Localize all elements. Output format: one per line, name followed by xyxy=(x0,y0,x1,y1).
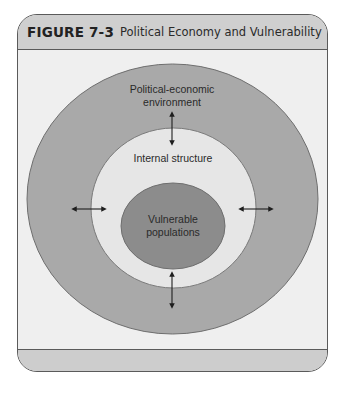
middle-label: Internal structure xyxy=(134,152,213,164)
concentric-diagram: Political-economic environment Internal … xyxy=(0,0,345,398)
outer-label-line-1: Political-economic xyxy=(130,83,215,95)
inner-label-line-1: Vulnerable xyxy=(148,213,198,225)
outer-label-line-2: environment xyxy=(143,96,201,108)
inner-label-line-2: populations xyxy=(146,226,200,238)
